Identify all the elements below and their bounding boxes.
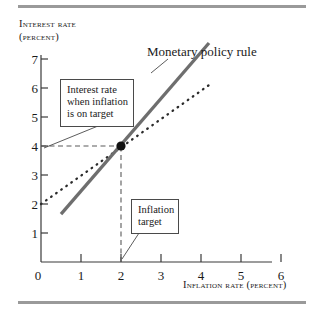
y-tick-label-1: 1 xyxy=(24,227,38,240)
figure-panel: Interest rate (percent) Inflation rate (… xyxy=(0,0,323,313)
interest-rate-callout: Interest rate when inflation is on targe… xyxy=(60,79,134,127)
y-tick-label-3: 3 xyxy=(24,169,38,182)
monetary-policy-rule-series xyxy=(61,43,209,214)
x-tick-label-1: 1 xyxy=(74,269,88,282)
y-tick-label-5: 5 xyxy=(24,111,38,124)
x-tick-label-6: 6 xyxy=(274,269,288,282)
interest-rate-callout-line-1: Interest rate xyxy=(67,84,127,96)
series-label-leader xyxy=(151,59,168,73)
y-tick-label-4: 4 xyxy=(24,140,38,153)
x-axis-ticks xyxy=(81,254,281,262)
y-tick-label-2: 2 xyxy=(24,198,38,211)
x-tick-label-3: 3 xyxy=(154,269,168,282)
guide-lines xyxy=(41,146,121,262)
x-tick-label-0: 0 xyxy=(31,269,45,282)
y-tick-label-7: 7 xyxy=(24,53,38,66)
interest-rate-callout-line-2: when inflation xyxy=(67,96,127,108)
inflation-target-callout-line-1: Inflation xyxy=(138,204,172,216)
inflation-target-callout-line-2: target xyxy=(138,216,172,228)
monetary-policy-rule-label: Monetary policy rule xyxy=(147,44,257,60)
x-tick-label-5: 5 xyxy=(234,269,248,282)
inflation-target-callout: Inflation target xyxy=(131,199,179,234)
y-tick-label-6: 6 xyxy=(24,82,38,95)
target-equilibrium-point-marker xyxy=(116,141,125,150)
x-tick-label-2: 2 xyxy=(114,269,128,282)
interest-rate-callout-leader xyxy=(44,126,98,148)
interest-rate-callout-line-3: is on target xyxy=(67,108,127,120)
x-tick-label-4: 4 xyxy=(194,269,208,282)
